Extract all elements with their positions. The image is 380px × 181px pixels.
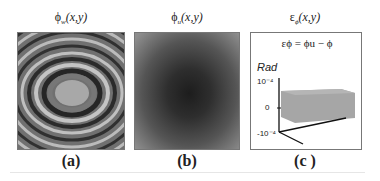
label-b: (b) <box>132 152 242 170</box>
3d-axes-graphic <box>251 33 362 150</box>
title-b: ϕu(x,y) <box>132 10 242 26</box>
title-c: εϕ(x,y) <box>250 10 360 26</box>
error-plot: εϕ = ϕu − ϕ Rad 10⁻⁴ 0 -10⁻⁴ <box>250 32 362 150</box>
fringe-rings-graphic <box>18 33 125 150</box>
title-a: ϕw(x,y) <box>16 10 126 26</box>
label-a: (a) <box>16 152 126 170</box>
wrapped-phase-image <box>17 32 125 150</box>
bottom-divider <box>10 172 365 173</box>
unwrapped-phase-image <box>134 32 240 150</box>
label-c: (c ) <box>250 152 360 170</box>
